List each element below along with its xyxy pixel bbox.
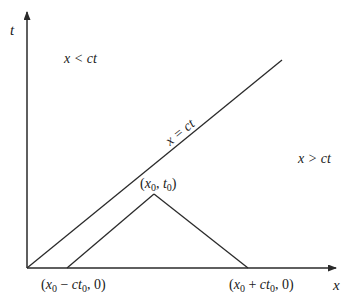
region-label-x-greater-ct: x > ct bbox=[297, 151, 332, 166]
x-axis-label: x bbox=[332, 277, 340, 293]
left-characteristic bbox=[67, 194, 154, 268]
characteristics-diagram: t x x < ct x > ct x = ct (x0, t0) (x0 − … bbox=[0, 0, 360, 308]
left-foot-label: (x0 − ct0, 0) bbox=[41, 277, 106, 294]
right-foot-label: (x0 + ct0, 0) bbox=[229, 277, 294, 294]
characteristic-line-x-eq-ct bbox=[27, 60, 282, 268]
right-characteristic bbox=[154, 194, 248, 268]
region-label-x-less-ct: x < ct bbox=[63, 51, 98, 66]
t-axis-label: t bbox=[10, 22, 15, 38]
apex-label: (x0, t0) bbox=[140, 176, 177, 193]
